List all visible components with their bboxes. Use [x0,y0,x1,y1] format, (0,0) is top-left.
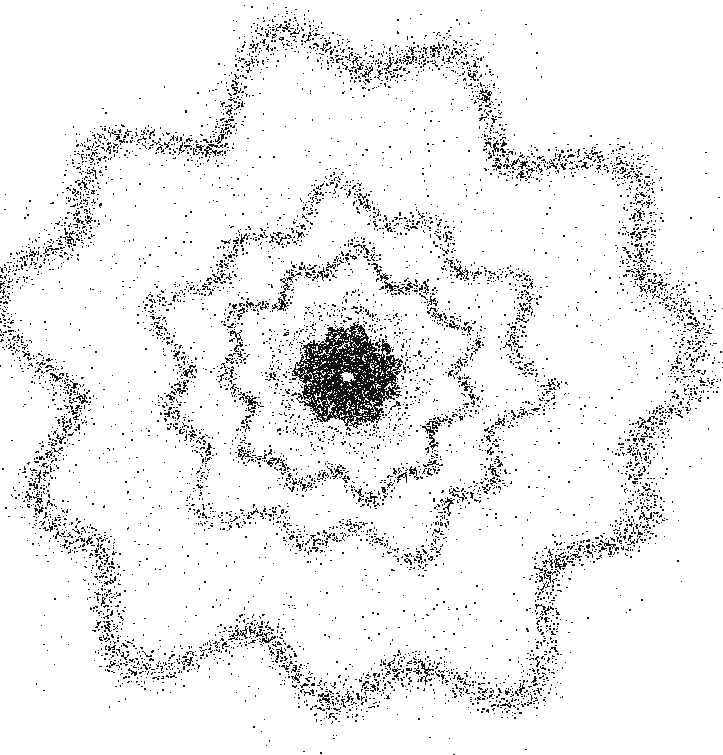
stipple-figure [0,0,723,755]
stipple-scatter-plot [0,0,723,755]
